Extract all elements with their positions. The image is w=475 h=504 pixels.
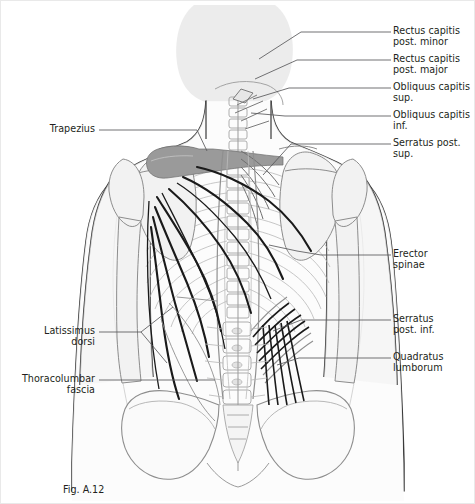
label-serratus-post-inf: Serratus post. inf.	[393, 313, 435, 336]
label-quadratus-lumborum: Quadratus lumborum	[393, 351, 443, 374]
head-silhouette	[176, 5, 293, 102]
label-serratus-post-sup: Serratus post. sup.	[393, 137, 461, 160]
label-obliquus-capitis-sup: Obliquus capitis sup.	[393, 81, 470, 104]
figure-caption: Fig. A.12	[63, 484, 104, 495]
label-trapezius: Trapezius	[9, 123, 95, 134]
label-rectus-capitis-post-major: Rectus capitis post. major	[393, 53, 460, 76]
label-latissimus-dorsi: Latissimus dorsi	[9, 325, 95, 348]
anatomy-figure-panel: Rectus capitis post. minor Rectus capiti…	[0, 0, 475, 504]
label-obliquus-capitis-inf: Obliquus capitis inf.	[393, 109, 470, 132]
label-rectus-capitis-post-minor: Rectus capitis post. minor	[393, 25, 460, 48]
label-erector-spinae: Erector spinae	[393, 248, 428, 271]
label-thoracolumbar-fascia: Thoracolumbar fascia	[3, 373, 95, 396]
